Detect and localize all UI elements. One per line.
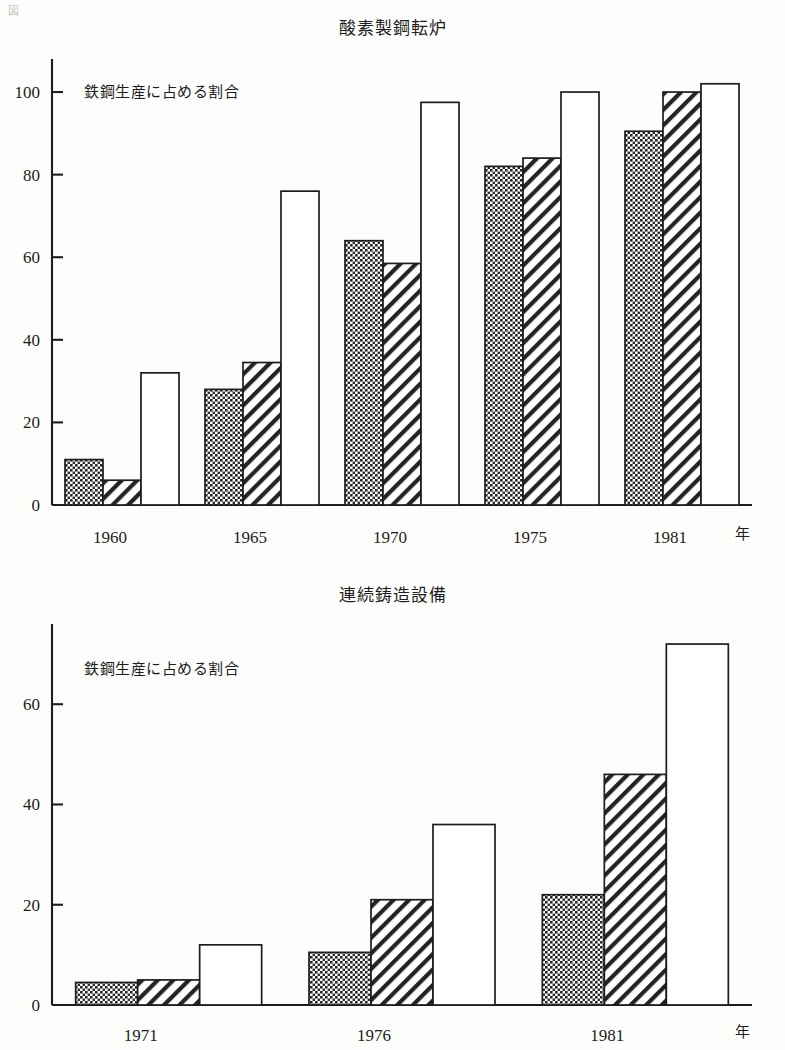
bar-1971-open (200, 945, 262, 1005)
x-tick-label-1965: 1965 (233, 528, 267, 547)
x-tick-label-1971: 1971 (124, 1026, 158, 1045)
y-tick-label: 0 (32, 496, 41, 515)
bar-1981-hatched (663, 92, 701, 505)
y-tick-label: 20 (23, 413, 40, 432)
bar-1976-open (433, 825, 495, 1005)
x-tick-label-1981: 1981 (590, 1026, 624, 1045)
x-tick-label-1960: 1960 (93, 528, 127, 547)
chart1-svg: 020406080100鉄鋼生産に占める割合196019651970197519… (0, 39, 785, 559)
chart1-plot-area: 020406080100鉄鋼生産に占める割合196019651970197519… (0, 39, 785, 563)
bar-1981-checkered (625, 131, 663, 505)
bar-1975-checkered (485, 166, 523, 505)
x-tick-label-1970: 1970 (373, 528, 407, 547)
y-tick-label: 100 (15, 83, 41, 102)
y-tick-label: 0 (32, 996, 41, 1015)
bar-1975-hatched (523, 158, 561, 505)
x-tick-label-1981: 1981 (653, 528, 687, 547)
bar-1971-checkered (76, 982, 138, 1005)
bar-1976-hatched (371, 900, 433, 1005)
y-tick-label: 20 (23, 896, 40, 915)
y-tick-label: 40 (23, 795, 40, 814)
bar-1981-hatched (604, 774, 666, 1005)
bar-1976-checkered (309, 952, 371, 1005)
x-tick-label-1975: 1975 (513, 528, 547, 547)
chart2-title: 連続鋳造設備 (0, 565, 785, 606)
bar-1960-open (141, 373, 179, 505)
plot-inner-label: 鉄鋼生産に占める割合 (84, 660, 239, 678)
chart2-svg: 0204060鉄鋼生産に占める割合197119761981年 (0, 606, 785, 1046)
bar-1960-hatched (103, 480, 141, 505)
y-tick-label: 40 (23, 331, 40, 350)
y-tick-label: 60 (23, 248, 40, 267)
y-tick-label: 80 (23, 166, 40, 185)
bar-1960-checkered (65, 460, 103, 505)
chart-continuous-casting: 連続鋳造設備 0204060鉄鋼生産に占める割合197119761981年 (0, 565, 785, 1050)
figure-page: 図 酸素製鋼転炉 020406080100鉄鋼生産に占める割合196019651… (0, 0, 785, 1050)
chart1-title: 酸素製鋼転炉 (0, 0, 785, 39)
x-axis-unit-label: 年 (735, 1023, 750, 1041)
plot-inner-label: 鉄鋼生産に占める割合 (84, 83, 239, 101)
bar-1971-hatched (138, 980, 200, 1005)
bar-1970-open (421, 102, 459, 505)
x-axis-unit-label: 年 (735, 525, 750, 543)
bar-1965-hatched (243, 363, 281, 505)
x-tick-label-1976: 1976 (357, 1026, 391, 1045)
bar-1975-open (561, 92, 599, 505)
chart-oxygen-converter: 酸素製鋼転炉 020406080100鉄鋼生産に占める割合19601965197… (0, 0, 785, 565)
bar-1981-checkered (542, 895, 604, 1005)
chart2-plot-area: 0204060鉄鋼生産に占める割合197119761981年 (0, 606, 785, 1050)
bar-1981-open (666, 644, 728, 1005)
bar-1970-checkered (345, 241, 383, 505)
bar-1965-checkered (205, 389, 243, 505)
y-tick-label: 60 (23, 695, 40, 714)
bar-1965-open (281, 191, 319, 505)
bar-1981-open (701, 84, 739, 505)
bar-1970-hatched (383, 263, 421, 505)
